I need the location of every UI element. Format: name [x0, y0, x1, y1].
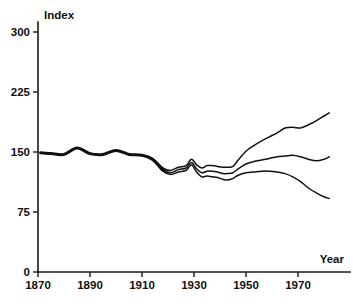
- x-tick-label: 1950: [233, 279, 259, 291]
- chart-canvas: 075150225300 187018901910193019501970 In…: [0, 0, 353, 304]
- x-tick-label: 1910: [129, 279, 155, 291]
- y-axis-title: Index: [44, 9, 75, 21]
- x-tick-label: 1930: [181, 279, 207, 291]
- y-tick-label: 150: [11, 146, 30, 158]
- axes: [38, 22, 350, 272]
- series-line-upper: [41, 113, 330, 171]
- x-tick-label: 1870: [25, 279, 51, 291]
- y-tick-label: 0: [24, 266, 30, 278]
- x-axis-title: Year: [320, 253, 345, 265]
- y-axis-ticks: 075150225300: [11, 26, 38, 278]
- series-lines: [41, 113, 330, 199]
- x-tick-label: 1890: [77, 279, 103, 291]
- line-chart: 075150225300 187018901910193019501970 In…: [0, 0, 353, 304]
- y-tick-label: 225: [11, 86, 31, 98]
- series-line-combined-early: [41, 148, 163, 170]
- y-tick-label: 75: [17, 206, 30, 218]
- x-axis-ticks: 187018901910193019501970: [25, 272, 311, 291]
- x-tick-label: 1970: [285, 279, 311, 291]
- y-tick-label: 300: [11, 26, 30, 38]
